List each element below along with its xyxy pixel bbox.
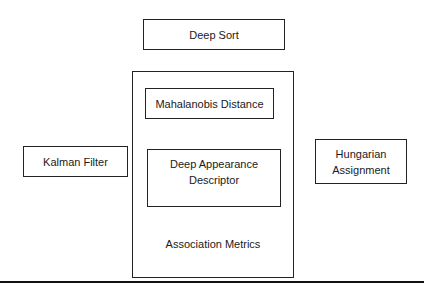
deep-appearance-label-line1: Deep Appearance	[170, 156, 258, 172]
mahalanobis-distance-box: Mahalanobis Distance	[145, 88, 274, 119]
kalman-filter-label: Kalman Filter	[43, 154, 108, 170]
bottom-divider-line	[0, 281, 424, 283]
deep-sort-box: Deep Sort	[143, 19, 285, 50]
association-metrics-caption: Association Metrics	[132, 238, 294, 250]
mahalanobis-distance-label: Mahalanobis Distance	[155, 96, 263, 112]
deep-sort-label: Deep Sort	[189, 27, 239, 43]
hungarian-label-line1: Hungarian	[336, 146, 387, 162]
deep-appearance-descriptor-box: Deep Appearance Descriptor	[147, 149, 281, 207]
association-metrics-text: Association Metrics	[166, 238, 261, 250]
hungarian-assignment-box: Hungarian Assignment	[315, 139, 407, 184]
deep-appearance-label-line2: Descriptor	[189, 172, 239, 188]
kalman-filter-box: Kalman Filter	[23, 146, 128, 177]
hungarian-label-line2: Assignment	[332, 162, 389, 178]
